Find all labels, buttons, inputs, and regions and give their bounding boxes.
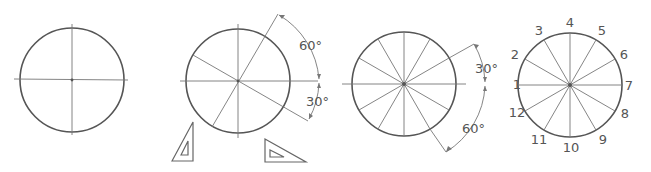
arrowhead-icon — [483, 86, 487, 91]
arrowhead-icon — [309, 113, 313, 119]
sixty-degree-label: 60° — [299, 38, 322, 53]
point-label-6: 6 — [620, 47, 628, 62]
thirty-sixty-triangle-vertical-icon — [172, 122, 193, 161]
extension-line — [430, 129, 446, 152]
arrowhead-icon — [483, 77, 487, 82]
center-point — [237, 80, 240, 83]
point-label-10: 10 — [563, 140, 580, 155]
sixty-degree-dimension-arc — [446, 86, 485, 152]
center-point — [71, 79, 74, 82]
division-lines — [342, 32, 474, 152]
point-label-9: 9 — [599, 132, 607, 147]
point-label-2: 2 — [511, 47, 519, 62]
panel-4-numbered-points: 1 2 3 4 5 6 7 8 9 10 11 12 — [509, 15, 633, 155]
arrowhead-icon — [446, 146, 452, 152]
point-label-8: 8 — [621, 106, 629, 121]
panel-2-thirty-sixty-lines: 60° 30° — [172, 14, 329, 162]
point-label-1: 1 — [513, 77, 521, 92]
thirty-degree-line — [193, 55, 308, 121]
point-label-12: 12 — [509, 105, 526, 120]
thirty-degree-label: 30° — [306, 94, 329, 109]
circle-division-diagram: 60° 30° 30° 60° 1 2 — [0, 0, 651, 172]
point-label-11: 11 — [531, 132, 548, 147]
panel-3-twelve-divisions: 30° 60° — [342, 32, 498, 152]
center-point — [402, 82, 406, 86]
center-point — [568, 83, 572, 87]
panel-1-circle-with-centerlines — [14, 24, 128, 135]
arrowhead-icon — [317, 83, 321, 88]
point-label-4: 4 — [566, 15, 574, 30]
sixty-degree-label: 60° — [462, 121, 485, 136]
point-label-3: 3 — [535, 23, 543, 38]
extension-line — [449, 44, 474, 58]
thirty-degree-label: 30° — [475, 61, 498, 76]
point-label-7: 7 — [625, 78, 633, 93]
thirty-sixty-triangle-horizontal-icon — [265, 139, 306, 162]
point-label-5: 5 — [598, 23, 606, 38]
arrowhead-icon — [474, 44, 479, 49]
arrowhead-icon — [317, 74, 321, 79]
